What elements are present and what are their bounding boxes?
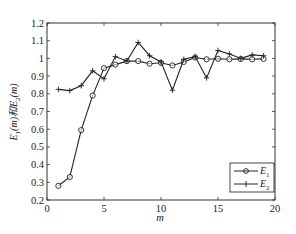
y-label-e1: E (8, 134, 19, 141)
y-tick-label: 0.9 (31, 71, 44, 82)
y-tick-label: 0.6 (31, 124, 44, 135)
y-tick-label: 0.8 (31, 88, 44, 99)
y-tick-label: 0.7 (31, 106, 44, 117)
y-tick-label: 1.2 (31, 18, 44, 29)
y-tick-label: 0.2 (31, 195, 44, 206)
y-tick-label: 0.3 (31, 177, 44, 188)
circle-marker-icon (215, 56, 220, 61)
circle-marker-icon (204, 57, 209, 62)
legend-e1-label: E (259, 165, 266, 176)
circle-marker-icon (170, 63, 175, 68)
x-axis-label: m (156, 212, 164, 223)
x-tick-label: 20 (270, 203, 281, 214)
y-label-end: (m) (8, 83, 20, 98)
y-axis-label: E1(m)和E2(m) (8, 83, 22, 142)
legend-e2-sub: 2 (266, 184, 270, 192)
y-label-e2: E (8, 101, 19, 108)
circle-marker-icon (147, 61, 152, 66)
legend-e2-label: E (259, 178, 266, 189)
circle-marker-icon (90, 93, 95, 98)
legend: E1 E2 (230, 163, 274, 192)
circle-marker-icon (67, 174, 72, 179)
circle-marker-icon (113, 62, 118, 67)
legend-e1-sub: 1 (266, 171, 270, 179)
circle-marker-icon (56, 183, 61, 188)
y-tick-label: 0.4 (31, 159, 45, 170)
y-tick-label: 1.1 (31, 35, 44, 46)
svg-text:E1(m)和E2(m): E1(m)和E2(m) (8, 83, 22, 142)
x-tick-label: 0 (44, 203, 49, 214)
y-tick-label: 0.5 (31, 141, 44, 152)
y-label-mid: (m)和 (8, 106, 20, 131)
circle-marker-icon (101, 66, 106, 71)
x-tick-label: 5 (101, 203, 106, 214)
x-tick-label: 15 (213, 203, 224, 214)
circle-marker-icon (79, 127, 84, 132)
y-tick-labels: 0.20.30.40.50.60.70.80.911.11.2 (31, 18, 45, 206)
circle-marker-icon (136, 58, 141, 63)
circle-marker-icon (227, 57, 232, 62)
line-chart: 0.20.30.40.50.60.70.80.911.11.2 05101520… (0, 0, 296, 234)
y-tick-label: 1 (39, 53, 44, 64)
